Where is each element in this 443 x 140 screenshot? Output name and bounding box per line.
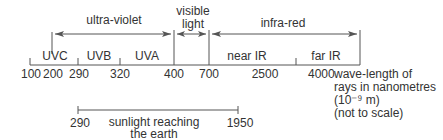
tick-200: 200 xyxy=(43,68,63,81)
tick-700: 700 xyxy=(199,68,219,81)
band-label-far-ir: far IR xyxy=(311,50,340,63)
sunlight-start: 290 xyxy=(70,117,90,130)
axis-label-line4: (not to scale) xyxy=(334,107,403,120)
tick-100: 100 xyxy=(21,68,41,81)
region-label-infra-red: infra-red xyxy=(261,17,306,30)
tick-400: 400 xyxy=(164,68,184,81)
band-label-uva: UVA xyxy=(135,50,159,63)
band-label-uvc: UVC xyxy=(42,50,67,63)
region-label-light: light xyxy=(182,18,204,31)
sunlight-end: 1950 xyxy=(227,117,254,130)
tick-2500: 2500 xyxy=(252,68,279,81)
tick-320: 320 xyxy=(110,68,130,81)
band-label-near-ir: near IR xyxy=(227,50,266,63)
band-label-uvb: UVB xyxy=(87,50,112,63)
tick-4000: 4000 xyxy=(308,68,335,81)
region-label-ultra-violet: ultra-violet xyxy=(86,14,141,27)
sunlight-label-line2: the earth xyxy=(130,128,177,140)
tick-290: 290 xyxy=(69,68,89,81)
